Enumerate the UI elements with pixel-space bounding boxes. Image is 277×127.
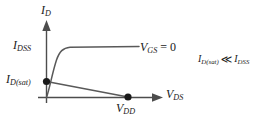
- annotation-right-sub: DSS: [238, 58, 250, 65]
- x-axis: [38, 93, 163, 101]
- vdd-marker-dot: [124, 93, 131, 100]
- vgs-curve-label-sub: GS: [147, 46, 157, 55]
- y-axis-label: ID: [41, 4, 51, 16]
- idsat-label-sub: D(sat): [10, 78, 31, 87]
- idss-label-sub: DSS: [17, 44, 31, 53]
- y-axis: [42, 20, 50, 103]
- annotation-left-sub: D(sat): [201, 58, 218, 65]
- jfet-characteristic-figure: ID IDSS ID(sat) VGS = 0 VDS VDD ID(sat)≪…: [0, 0, 277, 127]
- vdd-label-sub: DD: [123, 107, 135, 116]
- id-sat-marker-dot: [43, 78, 50, 85]
- idsat-label: ID(sat): [6, 73, 31, 85]
- vdd-label: VDD: [116, 102, 135, 114]
- dc-load-line: [47, 82, 129, 98]
- inequality-annotation: ID(sat)≪IDSS: [198, 53, 249, 64]
- y-axis-label-sub: D: [45, 9, 51, 18]
- vgs-curve-label: VGS = 0: [140, 41, 176, 53]
- x-axis-arrowhead: [152, 93, 163, 101]
- vgs-curve-label-value: = 0: [157, 40, 176, 54]
- x-axis-label-sub: DS: [173, 93, 183, 102]
- y-axis-arrowhead: [42, 20, 50, 31]
- much-less-than-icon: ≪: [219, 53, 235, 66]
- idss-label: IDSS: [13, 39, 31, 51]
- x-axis-label: VDS: [166, 88, 183, 100]
